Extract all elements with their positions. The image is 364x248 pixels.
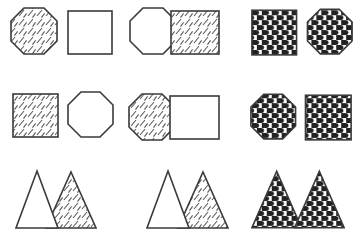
octagon-checkered [251, 94, 296, 139]
figure-canvas [0, 0, 364, 248]
panel-r3c1[interactable] [0, 166, 121, 248]
square-plain [68, 11, 112, 54]
octagon-plain [68, 92, 113, 137]
square-checkered [305, 95, 351, 140]
triangle-checkered-right [295, 171, 345, 228]
panel-r1c3[interactable] [242, 0, 363, 82]
octagon-hatched [11, 8, 57, 54]
octagon-checkered [307, 9, 352, 54]
square-hatched [13, 94, 58, 137]
triangle-plain [16, 171, 58, 228]
octagon-hatched [129, 94, 175, 140]
triangle-checkered-left [252, 171, 302, 228]
panel-r2c2[interactable] [121, 83, 242, 165]
square-checkered [252, 10, 297, 55]
square-plain [170, 96, 219, 139]
triangle-plain [147, 171, 189, 228]
panel-r3c2[interactable] [121, 166, 242, 248]
panel-r1c2[interactable] [121, 0, 242, 82]
panel-r1c1[interactable] [0, 0, 121, 82]
panel-r2c1[interactable] [0, 83, 121, 165]
panel-r3c3[interactable] [242, 166, 363, 248]
square-hatched [171, 11, 219, 54]
panel-r2c3[interactable] [242, 83, 363, 165]
octagon-plain [130, 8, 176, 54]
